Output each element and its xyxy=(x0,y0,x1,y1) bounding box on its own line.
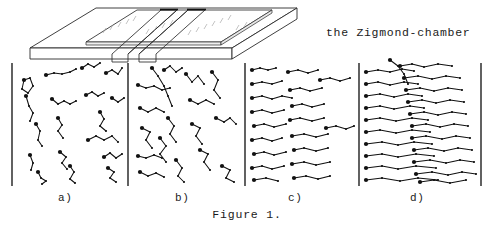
track-point-marker xyxy=(315,136,317,138)
panel-a-tracks xyxy=(21,62,125,185)
cell-track xyxy=(58,118,63,138)
track-point-marker xyxy=(283,109,285,111)
track-point-marker xyxy=(379,129,381,131)
track-start-marker xyxy=(158,136,162,140)
track-point-marker xyxy=(379,117,381,119)
track-start-marker xyxy=(250,138,254,142)
track-point-marker xyxy=(349,77,351,79)
track-point-marker xyxy=(431,143,433,145)
track-point-marker xyxy=(453,123,455,125)
track-point-marker xyxy=(169,65,171,67)
track-point-marker xyxy=(121,153,123,155)
track-point-marker xyxy=(423,111,425,113)
track-point-marker xyxy=(45,180,47,182)
track-point-marker xyxy=(403,81,405,83)
track-start-marker xyxy=(408,112,412,116)
track-start-marker xyxy=(138,170,142,174)
track-point-marker xyxy=(459,159,461,161)
track-point-marker xyxy=(397,144,399,146)
track-start-marker xyxy=(364,70,368,74)
track-point-marker xyxy=(191,81,193,83)
track-point-marker xyxy=(29,120,31,122)
track-point-marker xyxy=(417,75,419,77)
track-point-marker xyxy=(75,68,77,70)
track-point-marker xyxy=(403,73,405,75)
cell-track xyxy=(106,68,122,74)
cell-track xyxy=(164,66,182,72)
track-point-marker xyxy=(381,177,383,179)
track-point-marker xyxy=(429,131,431,133)
track-point-marker xyxy=(117,141,119,143)
track-start-marker xyxy=(50,97,54,101)
track-start-marker xyxy=(86,138,90,142)
panel-b-tracks xyxy=(136,65,237,183)
track-point-marker xyxy=(423,107,425,109)
track-point-marker xyxy=(413,70,415,72)
track-point-marker xyxy=(207,153,209,155)
track-point-marker xyxy=(151,147,153,149)
cell-track xyxy=(254,124,286,127)
track-point-marker xyxy=(459,77,461,79)
track-point-marker xyxy=(411,129,413,131)
track-point-marker xyxy=(121,67,123,69)
track-point-marker xyxy=(393,96,395,98)
cell-track xyxy=(366,130,430,133)
track-point-marker xyxy=(417,83,419,85)
track-point-marker xyxy=(181,67,183,69)
cell-track xyxy=(416,172,476,175)
track-point-marker xyxy=(147,111,149,113)
track-point-marker xyxy=(153,154,155,156)
track-point-marker xyxy=(149,131,151,133)
track-start-marker xyxy=(210,70,214,74)
track-point-marker xyxy=(433,90,435,92)
track-point-marker xyxy=(429,159,431,161)
track-point-marker xyxy=(427,119,429,121)
track-start-marker xyxy=(364,106,368,110)
track-point-marker xyxy=(229,169,231,171)
track-point-marker xyxy=(32,85,34,87)
track-start-marker xyxy=(188,98,192,102)
track-start-marker xyxy=(414,172,418,176)
track-point-marker xyxy=(63,100,65,102)
track-point-marker xyxy=(197,103,199,105)
track-point-marker xyxy=(301,103,303,105)
track-point-marker xyxy=(97,95,99,97)
track-point-marker xyxy=(29,77,31,79)
cell-track xyxy=(142,128,152,148)
track-start-marker xyxy=(24,94,28,98)
panel-c-tracks xyxy=(250,67,355,182)
track-point-marker xyxy=(167,95,169,97)
cell-track xyxy=(140,172,164,177)
track-point-marker xyxy=(203,161,205,163)
track-start-marker xyxy=(106,166,110,170)
track-start-marker xyxy=(364,118,368,122)
track-point-marker xyxy=(213,103,215,105)
track-point-marker xyxy=(123,97,125,99)
track-start-marker xyxy=(292,148,296,152)
track-point-marker xyxy=(413,141,415,143)
panel-label-c: c) xyxy=(288,192,302,204)
track-point-marker xyxy=(105,130,107,132)
track-point-marker xyxy=(99,125,101,127)
track-point-marker xyxy=(163,176,165,178)
track-point-marker xyxy=(443,150,445,152)
track-point-marker xyxy=(281,95,283,97)
track-start-marker xyxy=(214,116,218,120)
cell-track xyxy=(292,162,330,165)
cell-track xyxy=(60,152,67,169)
track-point-marker xyxy=(303,133,305,135)
track-point-marker xyxy=(431,171,433,173)
track-start-marker xyxy=(80,66,84,70)
track-start-marker xyxy=(252,178,256,182)
track-point-marker xyxy=(469,137,471,139)
track-start-marker xyxy=(290,104,294,108)
track-start-marker xyxy=(28,153,32,157)
track-point-marker xyxy=(41,145,43,147)
track-point-marker xyxy=(263,151,265,153)
track-point-marker xyxy=(21,88,23,90)
track-point-marker xyxy=(53,72,55,74)
track-point-marker xyxy=(273,126,275,128)
track-start-marker xyxy=(412,160,416,164)
cell-track xyxy=(212,72,220,98)
track-start-marker xyxy=(250,68,254,72)
